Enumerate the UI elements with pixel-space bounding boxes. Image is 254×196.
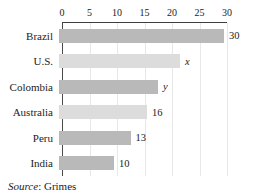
bar-track: 16 <box>58 100 254 126</box>
bar-track: 30 <box>58 23 254 49</box>
category-label: Brazil <box>0 30 58 42</box>
bar-track: y <box>58 74 254 100</box>
axis-tick-label: 20 <box>167 8 177 18</box>
bar-row: U.S.x <box>0 49 254 75</box>
value-label: y <box>163 81 168 92</box>
bar-track: x <box>58 49 254 75</box>
bar <box>59 54 180 68</box>
source-note: Source: Grimes <box>8 180 76 192</box>
bar-row: Peru13 <box>0 125 254 151</box>
bar-chart: 051015202530 Brazil30U.S.xColombiayAustr… <box>0 0 254 196</box>
bar-row: Brazil30 <box>0 23 254 49</box>
bar <box>59 131 131 145</box>
bar-row: Australia16 <box>0 100 254 126</box>
bar-track: 13 <box>58 125 254 151</box>
bar <box>59 80 158 94</box>
bar-row: India10 <box>0 151 254 177</box>
bar-row: Colombiay <box>0 74 254 100</box>
bar <box>59 156 114 170</box>
category-label: Peru <box>0 132 58 144</box>
value-label: 16 <box>152 107 163 118</box>
source-rest: : Grimes <box>38 180 76 192</box>
bar-track: 10 <box>58 151 254 177</box>
bar <box>59 29 224 43</box>
axis-tick-label: 0 <box>60 8 65 18</box>
bar <box>59 105 147 119</box>
axis-tick-label: 15 <box>140 8 150 18</box>
value-label: x <box>185 56 190 67</box>
category-label: Colombia <box>0 81 58 93</box>
category-label: U.S. <box>0 55 58 67</box>
value-label: 10 <box>119 158 130 169</box>
value-label: 13 <box>136 132 147 143</box>
axis-tick-label: 25 <box>195 8 205 18</box>
category-label: Australia <box>0 106 58 118</box>
source-word: Source <box>8 180 38 192</box>
axis-tick-label: 5 <box>87 8 92 18</box>
axis-tick-label: 30 <box>222 8 232 18</box>
bar-rows: Brazil30U.S.xColombiayAustralia16Peru13I… <box>0 23 254 176</box>
value-label: 30 <box>229 30 240 41</box>
axis-tick-label: 10 <box>112 8 122 18</box>
category-label: India <box>0 157 58 169</box>
